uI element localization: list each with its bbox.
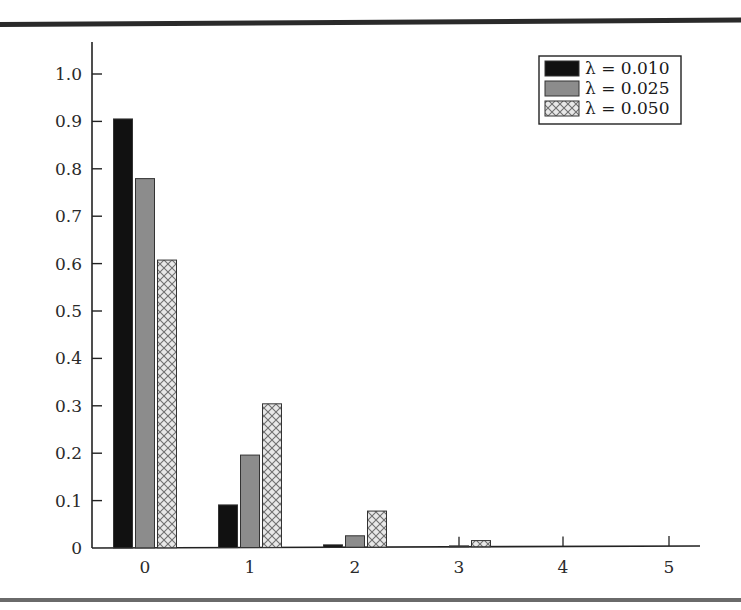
bar — [219, 505, 238, 548]
y-tick-label: 0.1 — [55, 491, 82, 511]
x-tick-label: 5 — [664, 557, 675, 577]
bar — [368, 511, 387, 547]
y-tick-label: 0.3 — [55, 396, 82, 416]
bars — [114, 119, 491, 548]
y-tick-label: 0.5 — [55, 301, 82, 321]
x-tick-label: 0 — [140, 557, 151, 577]
x-tick-label: 2 — [350, 557, 361, 577]
legend: λ = 0.010λ = 0.025λ = 0.050 — [539, 56, 681, 124]
x-tick-label: 1 — [245, 557, 256, 577]
y-tick-label: 0.8 — [55, 159, 82, 179]
bar — [263, 404, 282, 548]
x-tick-label: 3 — [454, 557, 465, 577]
legend-label: λ = 0.025 — [585, 78, 670, 98]
bar — [346, 536, 365, 547]
y-tick-label: 0.4 — [55, 348, 82, 368]
y-tick-label: 0.7 — [55, 206, 82, 226]
y-tick-label: 0.9 — [55, 111, 82, 131]
x-tick-label: 4 — [558, 557, 569, 577]
x-axis-line — [92, 546, 700, 548]
bar — [450, 546, 469, 547]
bar — [472, 541, 491, 547]
y-tick-label: 0.6 — [55, 254, 82, 274]
y-tick-label: 1.0 — [55, 64, 82, 84]
bar-chart: 00.10.20.30.40.50.60.70.80.91.0012345 λ … — [0, 0, 741, 610]
bar — [158, 260, 177, 548]
bar — [324, 545, 343, 547]
legend-swatch — [545, 81, 579, 96]
y-tick-label: 0 — [71, 538, 82, 558]
legend-swatch — [545, 101, 579, 116]
legend-label: λ = 0.010 — [585, 58, 670, 78]
bar — [136, 179, 155, 548]
legend-label: λ = 0.050 — [585, 98, 670, 118]
legend-swatch — [545, 61, 579, 76]
bar — [114, 119, 133, 548]
y-tick-label: 0.2 — [55, 443, 82, 463]
bar — [241, 455, 260, 547]
